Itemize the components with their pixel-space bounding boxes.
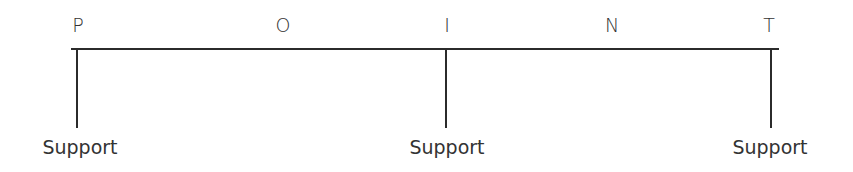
letter-o: O <box>276 14 291 36</box>
letter-n: N <box>605 14 619 36</box>
letter-p: P <box>72 14 83 36</box>
support-post-middle <box>445 49 447 128</box>
support-label-right: Support <box>732 136 807 158</box>
support-label-middle: Support <box>409 136 484 158</box>
support-post-left <box>76 49 78 128</box>
horizontal-beam-line <box>71 48 779 50</box>
support-label-left: Support <box>42 136 117 158</box>
letter-t: T <box>763 14 775 36</box>
letter-i: I <box>444 14 450 36</box>
support-post-right <box>770 49 772 128</box>
